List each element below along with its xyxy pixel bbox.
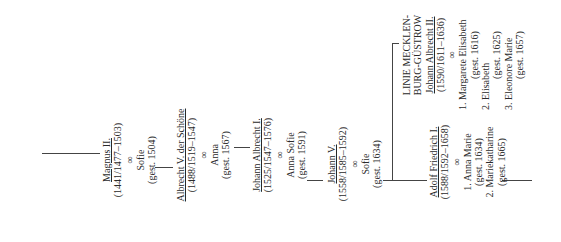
marriage-symbol: ∞ <box>451 106 462 218</box>
spouse-1-dates: (gest. 1634) <box>473 106 484 218</box>
person-dates: (1558/1585–1592) <box>337 113 348 215</box>
connector-line-2-3 <box>234 147 250 148</box>
person-dates: (1488/1519–1547) <box>186 80 197 230</box>
branch-block-mecklenburg-guestrow: LINIE MECKLEN- BURG-GÜSTROW Johann Albre… <box>401 0 525 110</box>
person-block-johann-albrecht-i: Johann Albrecht I. (1525/1547–1576) ∞ An… <box>251 95 307 215</box>
connector-line-fork-vertical <box>392 43 393 181</box>
spouse-name: Anna Sofie <box>285 95 296 215</box>
person-dates: (1441/1477–1503) <box>112 105 123 215</box>
spouse-3-name: 3. Eleonore Marie <box>503 0 514 110</box>
marriage-symbol: ∞ <box>124 105 135 215</box>
person-dates: (1590/1611–1636) <box>435 0 446 110</box>
spouse-dates: (gest. 1591) <box>296 95 307 215</box>
connector-line-fork-top <box>392 43 399 44</box>
person-name: Johann Albrecht I. <box>251 95 262 215</box>
connector-line-start <box>42 153 100 154</box>
spouse-name: Anna <box>209 80 220 230</box>
spouse-name: Sofie <box>135 105 146 215</box>
person-block-adolf-friedrich-i: Adolf Friedrich I. (1588/1592–1658) ∞ 1.… <box>428 106 507 218</box>
person-name: Johann Albrecht II. <box>424 0 435 110</box>
connector-line-1-2 <box>155 167 173 168</box>
person-name: Magnus II. <box>101 105 112 215</box>
person-name: Adolf Friedrich I. <box>428 106 439 218</box>
branch-title-line-1: LINIE MECKLEN- <box>401 0 412 110</box>
marriage-symbol: ∞ <box>446 0 457 110</box>
marriage-symbol: ∞ <box>349 113 360 215</box>
spouse-dates: (gest. 1634) <box>371 113 382 215</box>
spouse-2-dates: (gest. 1625) <box>491 0 502 110</box>
person-block-albrecht-v: Albrecht V. der Schöne (1488/1519–1547) … <box>175 80 231 230</box>
spouse-3-dates: (gest. 1657) <box>514 0 525 110</box>
spouse-2-name: 2. Elisabeth <box>480 0 491 110</box>
connector-line-3-4 <box>307 180 323 181</box>
branch-title-line-2: BURG-GÜSTROW <box>412 0 423 110</box>
spouse-dates: (gest. 1504) <box>146 105 157 215</box>
person-name: Johann V. <box>326 113 337 215</box>
spouse-2-dates: (gest. 1665) <box>496 106 507 218</box>
spouse-1-dates: (gest. 1616) <box>469 0 480 110</box>
person-dates: (1525/1547–1576) <box>262 95 273 215</box>
spouse-name: Sofie <box>360 113 371 215</box>
spouse-1-name: 1. Anna Marie <box>462 106 473 218</box>
person-dates: (1588/1592–1658) <box>439 106 450 218</box>
spouse-1-name: 1. Margarete Elisabeth <box>457 0 468 110</box>
marriage-symbol: ∞ <box>274 95 285 215</box>
person-block-johann-v: Johann V. (1558/1585–1592) ∞ Sofie (gest… <box>326 113 382 215</box>
spouse-2-name: 2. Mariekatharine <box>484 106 495 218</box>
spouse-dates: (gest. 1567) <box>220 80 231 230</box>
person-name: Albrecht V. der Schöne <box>175 80 186 230</box>
person-block-magnus-ii: Magnus II. (1441/1477–1503) ∞ Sofie (ges… <box>101 105 157 215</box>
marriage-symbol: ∞ <box>198 80 209 230</box>
connector-line-4-fork <box>383 180 427 181</box>
